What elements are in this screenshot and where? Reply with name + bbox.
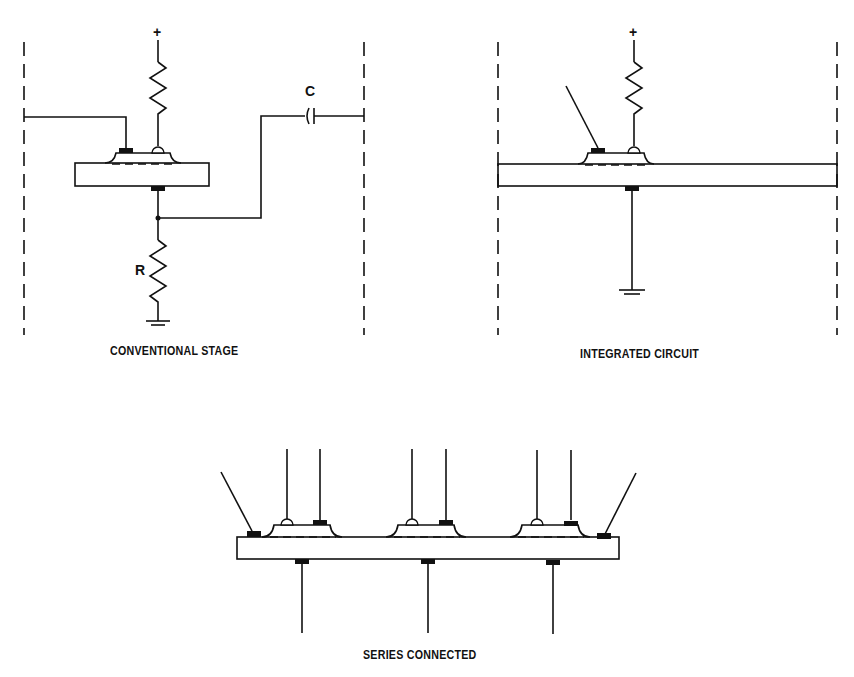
caption-series-connected: SERIES CONNECTED	[363, 647, 477, 662]
capacitor-label: C	[305, 83, 315, 99]
caption-integrated-circuit: INTEGRATED CIRCUIT	[580, 346, 699, 361]
plus-terminal-label: +	[153, 24, 161, 40]
stage-2	[386, 449, 466, 633]
resistor-r	[150, 240, 166, 321]
caption-conventional-stage: CONVENTIONAL STAGE	[110, 343, 238, 358]
plus-terminal-label-ic: +	[629, 24, 637, 40]
resistor-top	[150, 62, 166, 146]
junction-dot	[156, 216, 161, 221]
circuit-diagrams	[0, 0, 854, 677]
integrated-circuit-diagram	[498, 40, 837, 335]
stage-1	[262, 449, 342, 633]
resistor-label: R	[135, 262, 145, 278]
transistor-body	[75, 163, 209, 186]
stage-3	[510, 450, 590, 634]
series-connected-diagram	[221, 449, 636, 634]
